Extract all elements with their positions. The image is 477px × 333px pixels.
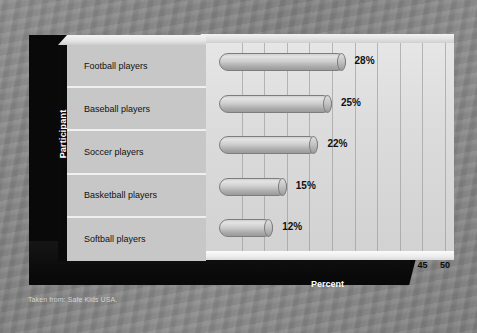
x-tick-label: 40 [395,260,405,270]
x-tick-label: 45 [417,260,427,270]
chart-frame: Participant Football playersBaseball pla… [29,17,425,285]
category-label: Baseball players [67,104,150,114]
gridline [287,43,288,251]
gridline [445,43,446,251]
gridline [242,43,243,251]
y-axis-band: Participant [58,45,67,261]
x-tick-label: 0 [216,260,221,270]
plot-wall-top-bevel [197,34,454,43]
category-row: Softball players [67,218,206,261]
category-row: Basketball players [67,175,206,218]
plot-gridlines [201,43,454,251]
category-label: Softball players [67,234,146,244]
x-tick-label: 20 [304,260,314,270]
y-axis-title: Participant [58,82,68,187]
x-axis-title: Percent [201,279,454,289]
chart-canvas: Participant Football playersBaseball pla… [0,0,477,333]
source-caption: Taken from: Safe Kids USA. [28,296,117,303]
category-row: Baseball players [67,88,206,131]
gridline [264,43,265,251]
gridline [309,43,310,251]
category-row: Soccer players [67,131,206,174]
category-panel-top-bevel [58,35,206,45]
x-tick-label: 25 [327,260,337,270]
x-tick-label: 35 [372,260,382,270]
category-label: Football players [67,61,148,71]
gridline [400,43,401,251]
category-label: Basketball players [67,190,157,200]
x-tick-label: 50 [440,260,450,270]
category-label: Soccer players [67,147,144,157]
x-tick-label: 15 [282,260,292,270]
gridline [332,43,333,251]
x-tick-label: 10 [259,260,269,270]
plot-floor-ledge [201,251,454,260]
gridline [355,43,356,251]
plot-area [201,43,454,251]
x-axis-tick-labels: 05101520253035404550 [201,260,454,276]
category-panel: Football playersBaseball playersSoccer p… [67,45,206,261]
x-tick-label: 30 [350,260,360,270]
gridline [422,43,423,251]
category-row: Football players [67,45,206,88]
gridline [377,43,378,251]
x-tick-label: 5 [239,260,244,270]
